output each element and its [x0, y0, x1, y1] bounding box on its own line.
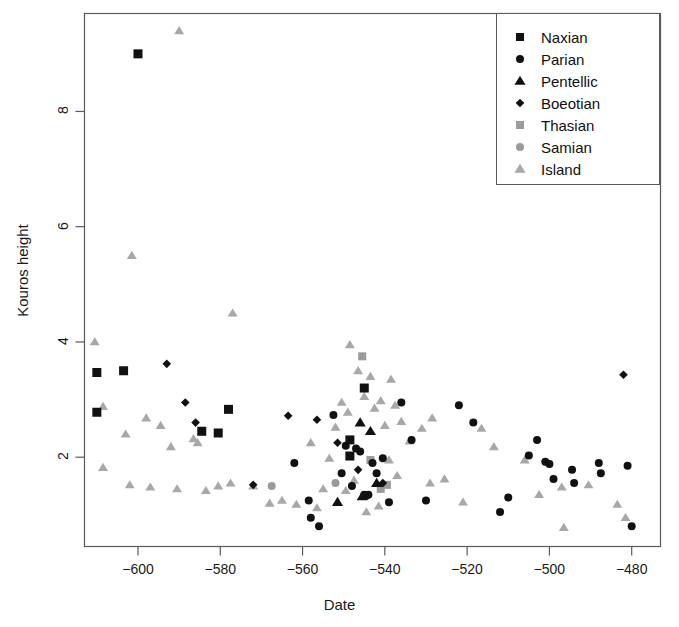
legend-item-boeotian[interactable]: Boeotian	[509, 92, 600, 114]
x-tick-label-6: −480	[606, 561, 658, 577]
circle-icon	[509, 48, 531, 70]
point-boeotian-6	[333, 438, 342, 447]
point-island-48	[425, 478, 435, 486]
legend-item-samian[interactable]: Samian	[509, 136, 592, 158]
x-tick-label-3: −540	[359, 561, 411, 577]
point-island-39	[374, 501, 384, 509]
circle-glyph	[516, 55, 524, 63]
point-island-3	[90, 337, 100, 345]
point-parian-27	[545, 460, 553, 468]
point-island-15	[201, 486, 211, 494]
point-island-43	[324, 454, 334, 462]
diamond-glyph	[516, 99, 525, 108]
point-island-49	[440, 474, 450, 482]
point-island-23	[331, 423, 341, 431]
point-island-5	[121, 429, 131, 437]
point-boeotian-1	[181, 398, 190, 407]
legend-item-parian[interactable]: Parian	[509, 48, 584, 70]
point-naxian-6	[224, 405, 233, 414]
point-island-54	[534, 490, 544, 498]
square-glyph	[516, 121, 524, 129]
point-boeotian-7	[354, 466, 363, 475]
circle-glyph	[516, 143, 524, 151]
point-naxian-2	[119, 366, 128, 375]
point-island-14	[172, 484, 182, 492]
point-parian-9	[356, 447, 364, 455]
point-island-25	[343, 408, 353, 416]
point-parian-30	[570, 479, 578, 487]
point-island-6	[141, 413, 151, 421]
legend-item-pentellic[interactable]: Pentellic	[509, 70, 598, 92]
point-naxian-8	[345, 435, 354, 444]
point-boeotian-0	[162, 360, 171, 369]
point-boeotian-9	[619, 370, 628, 379]
point-island-22	[312, 503, 322, 511]
point-island-8	[166, 442, 176, 450]
point-parian-24	[525, 451, 533, 459]
point-parian-12	[364, 491, 372, 499]
y-axis-title: Kouros height	[14, 211, 31, 331]
y-tick-label-1: 4	[55, 328, 71, 354]
x-tick-label-4: −520	[441, 561, 493, 577]
point-island-59	[621, 513, 631, 521]
point-pentellic-0	[355, 417, 366, 426]
point-parian-32	[597, 469, 605, 477]
legend-item-naxian[interactable]: Naxian	[509, 26, 588, 48]
point-parian-0	[290, 459, 298, 467]
point-island-58	[612, 500, 622, 508]
point-island-47	[427, 413, 437, 421]
point-parian-4	[329, 411, 337, 419]
legend-label-samian: Samian	[541, 139, 592, 156]
legend-label-boeotian: Boeotian	[541, 95, 600, 112]
point-parian-1	[305, 496, 313, 504]
point-parian-5	[338, 469, 346, 477]
point-parian-19	[422, 496, 430, 504]
point-naxian-3	[92, 408, 101, 417]
diamond-icon	[509, 92, 531, 114]
square-icon	[509, 114, 531, 136]
point-parian-22	[496, 508, 504, 516]
x-tick-label-1: −580	[194, 561, 246, 577]
point-island-32	[380, 421, 390, 429]
triangle-icon	[509, 70, 531, 92]
point-island-21	[291, 500, 301, 508]
point-island-20	[277, 496, 287, 504]
legend-label-island: Island	[541, 161, 581, 178]
point-parian-7	[348, 482, 356, 490]
point-parian-20	[455, 401, 463, 409]
point-naxian-4	[197, 427, 206, 436]
point-island-1	[127, 251, 137, 259]
point-island-35	[396, 417, 406, 425]
point-island-16	[213, 481, 223, 489]
point-island-40	[361, 507, 371, 515]
point-samian-0	[268, 482, 276, 490]
y-axis-title-wrap: Kouros height	[0, 0, 30, 560]
point-naxian-5	[214, 428, 223, 437]
point-naxian-7	[360, 384, 369, 393]
point-parian-15	[379, 454, 387, 462]
point-pentellic-1	[365, 426, 376, 435]
point-island-27	[353, 366, 363, 374]
y-tick-label-3: 8	[55, 97, 71, 123]
point-island-57	[584, 480, 594, 488]
point-island-17	[226, 478, 236, 486]
point-parian-13	[369, 459, 377, 467]
point-boeotian-4	[284, 411, 293, 420]
square-glyph	[516, 33, 524, 41]
point-parian-21	[469, 419, 477, 427]
point-island-12	[125, 480, 135, 488]
point-naxian-0	[133, 49, 142, 58]
point-island-45	[306, 438, 316, 446]
legend-item-thasian[interactable]: Thasian	[509, 114, 594, 136]
point-island-56	[559, 523, 569, 531]
point-island-26	[345, 340, 355, 348]
legend-item-island[interactable]: Island	[509, 158, 581, 180]
point-parian-14	[373, 469, 381, 477]
point-island-44	[318, 484, 328, 492]
point-island-50	[458, 497, 468, 505]
x-tick-label-2: −560	[277, 561, 329, 577]
point-island-30	[370, 403, 380, 411]
point-parian-34	[628, 522, 636, 530]
point-thasian-0	[358, 352, 366, 360]
triangle-glyph	[514, 164, 525, 173]
